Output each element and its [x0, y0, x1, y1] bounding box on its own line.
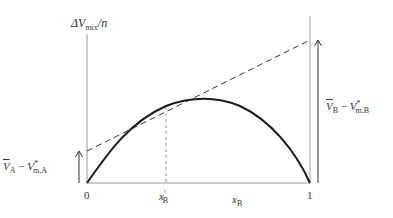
y-axis-label: ΔVmix/n: [71, 17, 107, 32]
x-axis-label: xB: [232, 194, 242, 208]
xb-prime-subscript: B: [163, 196, 168, 205]
y-axis-suffix: /n: [98, 16, 107, 30]
y-axis-symbol: ΔV: [71, 16, 85, 30]
minus-sign: −: [16, 160, 28, 172]
partial-molar-volume-b: V: [326, 100, 333, 112]
tick-label-xb-prime: x′B: [159, 190, 168, 205]
molar-volume-a-sub: m,A: [33, 166, 47, 175]
left-intercept-label: VA − V*m,A: [3, 160, 47, 175]
tick-label-one: 1: [307, 190, 313, 201]
partial-molar-volume-a: V: [3, 160, 10, 172]
mixing-volume-curve: [87, 99, 310, 183]
y-axis-subscript: mix: [85, 23, 97, 32]
minus-sign: −: [338, 100, 350, 112]
right-intercept-label: VB − V*m,B: [326, 100, 369, 115]
tick-label-zero: 0: [84, 190, 90, 201]
molar-volume-b-sub: m,B: [356, 106, 370, 115]
x-axis-subscript: B: [237, 199, 242, 208]
